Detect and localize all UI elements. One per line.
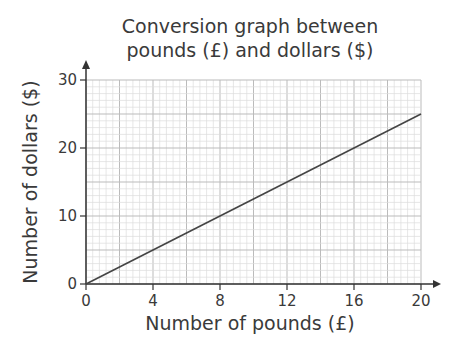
x-tick-label: 20 <box>411 292 430 310</box>
y-tick-label: 10 <box>58 207 77 225</box>
x-tick-label: 0 <box>81 292 91 310</box>
x-tick-label: 4 <box>148 292 158 310</box>
x-axis-label: Number of pounds (£) <box>100 312 400 334</box>
x-tick-label: 16 <box>344 292 363 310</box>
y-axis-arrow-icon <box>82 60 90 69</box>
x-tick-label: 12 <box>277 292 296 310</box>
y-tick-label: 20 <box>58 139 77 157</box>
y-tick-label: 30 <box>58 71 77 89</box>
chart-plot-area: 0481216200102030 <box>0 0 475 350</box>
y-axis-label: Number of dollars ($) <box>19 72 41 292</box>
x-axis-arrow-icon <box>433 280 441 288</box>
x-tick-label: 8 <box>215 292 225 310</box>
y-tick-label: 0 <box>67 275 77 293</box>
